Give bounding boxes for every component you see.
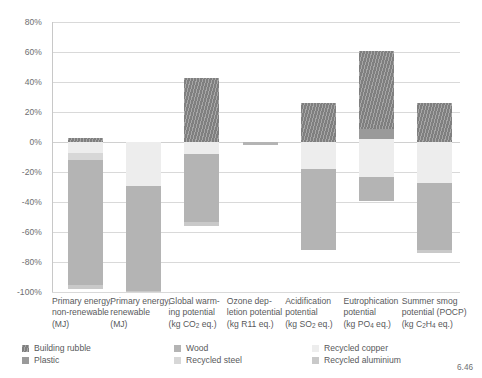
bar-segment: [68, 153, 103, 161]
category-label-line: Summer smog: [402, 296, 460, 307]
y-axis-tick-labels: 80%60%40%20%0%-20%-40%-60%-80%-100%: [0, 22, 48, 292]
category-label-line: (kg SO2 eq.): [285, 319, 343, 330]
bar-segment: [359, 139, 394, 177]
x-axis-category-label: Ozone dep-letion potential(kg R11 eq.): [227, 296, 285, 330]
bar-segment: [184, 222, 219, 227]
bar-segment: [359, 51, 394, 129]
legend-swatch-icon: [174, 345, 181, 352]
bar-segment: [126, 186, 161, 291]
bar-segment: [68, 142, 103, 153]
page-number: 6.46: [457, 363, 473, 372]
legend-swatch-icon: [312, 345, 319, 352]
bar-segment: [301, 103, 336, 142]
bar-segment: [417, 183, 452, 251]
legend-swatch-icon: [22, 345, 29, 352]
category-label-line: (kg PO4 eq.): [343, 319, 401, 330]
legend-item: Recycled steel: [174, 355, 242, 365]
legend-label: Recycled copper: [324, 343, 388, 353]
category-label-line: ing potential: [169, 307, 227, 318]
bar-segment: [68, 285, 103, 290]
plot-area: [52, 22, 460, 292]
bar-segment: [184, 142, 219, 154]
bar-column: [68, 22, 103, 292]
y-axis-tick: 40%: [25, 77, 42, 87]
legend-item: Building rubble: [22, 343, 91, 353]
y-axis-tick: 80%: [25, 17, 42, 27]
y-axis-tick: -40%: [22, 197, 42, 207]
bar-column: [417, 22, 452, 292]
category-label-line: Ozone dep-: [227, 296, 285, 307]
legend-swatch-icon: [22, 357, 29, 364]
category-label-line: (kg CO2 eq.): [169, 319, 227, 330]
bar-segment: [359, 177, 394, 201]
category-label-line: Eutrophication: [343, 296, 401, 307]
category-label-line: letion potential: [227, 307, 285, 318]
category-label-line: (MJ): [110, 319, 168, 330]
category-label-line: potential (POCP): [402, 307, 460, 318]
bar-column: [126, 22, 161, 292]
bar-segment: [301, 142, 336, 169]
category-label-line: (kg C2H4 eq.): [402, 319, 460, 330]
chart-legend: Building rubblePlasticWoodRecycled steel…: [22, 343, 442, 369]
category-label-line: (kg R11 eq.): [227, 319, 285, 330]
x-axis-category-label: Eutrophicationpotential(kg PO4 eq.): [343, 296, 401, 330]
x-axis-category-label: Acidificationpotential(kg SO2 eq.): [285, 296, 343, 330]
legend-label: Recycled aluminium: [324, 355, 401, 365]
category-label-line: Primary energy,: [110, 296, 168, 307]
category-label-line: non-renewable: [52, 307, 110, 318]
bar-segment: [243, 142, 278, 145]
bar-segment: [126, 142, 161, 186]
category-label-line: (MJ): [52, 319, 110, 330]
legend-label: Building rubble: [34, 343, 91, 353]
y-axis-tick: -60%: [22, 227, 42, 237]
y-axis-tick: 20%: [25, 107, 42, 117]
bar-column: [359, 22, 394, 292]
bar-segment: [68, 160, 103, 285]
bar-series-group: [52, 22, 460, 292]
gridline: [52, 292, 460, 293]
bar-column: [184, 22, 219, 292]
legend-item: Recycled aluminium: [312, 355, 401, 365]
category-label-line: renewable: [110, 307, 168, 318]
y-axis-tick: -80%: [22, 257, 42, 267]
legend-swatch-icon: [312, 357, 319, 364]
x-axis-category-label: Primary energy,renewable(MJ): [110, 296, 168, 330]
bar-segment: [359, 129, 394, 140]
category-label-line: Global warm-: [169, 296, 227, 307]
legend-label: Plastic: [34, 355, 59, 365]
bar-segment: [301, 169, 336, 250]
category-label-line: Primary energy,: [52, 296, 110, 307]
bar-column: [243, 22, 278, 292]
legend-item: Wood: [174, 343, 208, 353]
x-axis-category-label: Primary energy,non-renewable(MJ): [52, 296, 110, 330]
bar-segment: [184, 78, 219, 143]
y-axis-tick: -20%: [22, 167, 42, 177]
y-axis-tick: 60%: [25, 47, 42, 57]
bar-segment: [126, 291, 161, 293]
legend-item: Plastic: [22, 355, 59, 365]
bar-segment: [184, 154, 219, 222]
bar-segment: [417, 142, 452, 183]
bar-column: [301, 22, 336, 292]
bar-segment: [417, 103, 452, 142]
x-axis-category-label: Global warm-ing potential(kg CO2 eq.): [169, 296, 227, 330]
x-axis-category-label: Summer smogpotential (POCP)(kg C2H4 eq.): [402, 296, 460, 330]
category-label-line: potential: [343, 307, 401, 318]
y-axis-tick: -100%: [17, 287, 42, 297]
bar-segment: [417, 250, 452, 253]
x-axis-category-labels: Primary energy,non-renewable(MJ)Primary …: [52, 296, 460, 336]
figure-page: 80%60%40%20%0%-20%-40%-60%-80%-100% Prim…: [0, 0, 482, 378]
legend-label: Wood: [186, 343, 208, 353]
legend-swatch-icon: [174, 357, 181, 364]
category-label-line: Acidification: [285, 296, 343, 307]
category-label-line: potential: [285, 307, 343, 318]
y-axis-tick: 0%: [30, 137, 43, 147]
legend-label: Recycled steel: [186, 355, 242, 365]
legend-item: Recycled copper: [312, 343, 388, 353]
